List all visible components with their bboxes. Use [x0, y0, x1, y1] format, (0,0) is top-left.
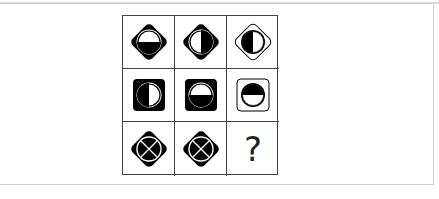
question-mark: ?	[244, 132, 262, 166]
cell-r2-c1	[123, 69, 175, 122]
cell-r3-c2	[175, 122, 227, 176]
cell-r3-c3-missing: ?	[227, 122, 279, 176]
cell-r2-c2	[175, 69, 227, 122]
square-circle-bottom-half-icon	[178, 72, 224, 118]
square-circle-left-half-icon	[126, 72, 172, 118]
puzzle-grid: ?	[122, 15, 278, 175]
cell-r1-c1	[123, 16, 175, 69]
cell-r3-c1	[123, 122, 175, 176]
cell-r2-c3	[227, 69, 279, 122]
diamond-circle-bottom-half-icon	[126, 19, 172, 65]
cell-r1-c2	[175, 16, 227, 69]
diamond-circle-x-icon	[178, 126, 224, 172]
diamond-circle-right-half-icon	[178, 19, 224, 65]
diamond-circle-x-icon	[126, 126, 172, 172]
outline-diamond-circle-left-half-icon	[230, 19, 276, 65]
outline-square-circle-top-half-icon	[230, 72, 276, 118]
cell-r1-c3	[227, 16, 279, 69]
